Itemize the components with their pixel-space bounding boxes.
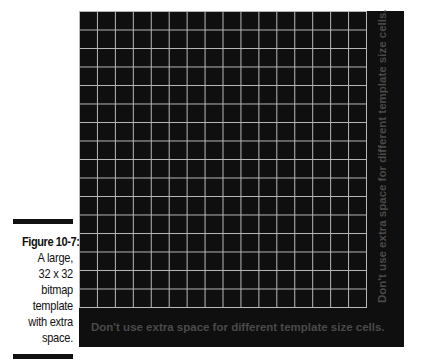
caption-rule-top <box>13 219 73 224</box>
caption-line: template <box>22 298 73 314</box>
figure-caption: Figure 10-7: A large, 32 x 32 bitmap tem… <box>13 219 73 359</box>
caption-line: A large, <box>22 250 73 266</box>
caption-line: bitmap <box>22 282 73 298</box>
caption-line: space. <box>22 330 73 346</box>
figure-number: Figure 10-7: <box>22 234 73 250</box>
side-extra-space-note: Don't use extra space for different temp… <box>376 33 388 303</box>
caption-line: 32 x 32 <box>22 266 73 282</box>
caption-line: with extra <box>22 314 73 330</box>
bottom-extra-space-note: Don't use extra space for different temp… <box>91 321 385 333</box>
bitmap-template-figure: Don't use extra space for different temp… <box>79 11 404 347</box>
caption-rule-bottom <box>13 354 73 359</box>
bitmap-grid <box>79 11 367 308</box>
